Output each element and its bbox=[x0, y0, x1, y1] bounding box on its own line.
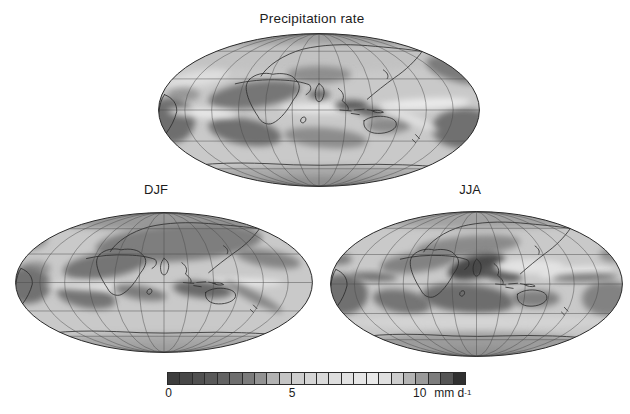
colorbar-cell bbox=[316, 373, 328, 384]
colorbar-cell bbox=[304, 373, 316, 384]
panel-label-jja: JJA bbox=[459, 182, 481, 197]
colorbar-unit: mm d-1 bbox=[434, 386, 471, 400]
colorbar-tick-label: 5 bbox=[289, 386, 296, 400]
colorbar-cell bbox=[229, 373, 241, 384]
coastline bbox=[292, 227, 313, 230]
colorbar-cell bbox=[242, 373, 254, 384]
colorbar-cell bbox=[353, 373, 365, 384]
colorbar-cell bbox=[453, 373, 465, 384]
colorbar-cell bbox=[168, 373, 179, 384]
colorbar-tick-label: 0 bbox=[165, 386, 172, 400]
colorbar-cell bbox=[204, 373, 216, 384]
map-djf-precipitation bbox=[15, 212, 313, 353]
coastline bbox=[602, 227, 623, 230]
colorbar-cell bbox=[179, 373, 191, 384]
colorbar-cell bbox=[428, 373, 440, 384]
colorbar-cell bbox=[192, 373, 204, 384]
colorbar-cell bbox=[378, 373, 390, 384]
colorbar-cell bbox=[415, 373, 427, 384]
colorbar-cell bbox=[341, 373, 353, 384]
colorbar-cell bbox=[291, 373, 303, 384]
coastline bbox=[330, 230, 361, 239]
coastline bbox=[200, 46, 218, 50]
colorbar-ticks: mm d-1 0510 bbox=[167, 386, 466, 401]
coastline bbox=[457, 50, 480, 53]
colorbar-cell bbox=[217, 373, 229, 384]
panel-label-djf: DJF bbox=[144, 182, 168, 197]
figure-precipitation-rate: Precipitation rate DJF JJA mm d-1 0510 bbox=[0, 0, 630, 414]
colorbar-cell bbox=[440, 373, 452, 384]
coastline bbox=[54, 224, 70, 228]
colorbar-cell bbox=[279, 373, 291, 384]
colorbar-cell bbox=[403, 373, 415, 384]
colorbar-cell bbox=[391, 373, 403, 384]
coastline bbox=[158, 53, 192, 62]
map-jja-precipitation bbox=[330, 211, 623, 357]
coastline bbox=[15, 231, 47, 239]
coastline bbox=[368, 223, 384, 227]
colorbar bbox=[167, 372, 466, 385]
colorbar-cell bbox=[254, 373, 266, 384]
colorbar-cell bbox=[328, 373, 340, 384]
colorbar-cell bbox=[366, 373, 378, 384]
colorbar-tick-label: 10 bbox=[413, 386, 426, 400]
figure-title: Precipitation rate bbox=[260, 11, 365, 26]
map-annual-precipitation bbox=[158, 33, 480, 187]
colorbar-cell bbox=[266, 373, 278, 384]
